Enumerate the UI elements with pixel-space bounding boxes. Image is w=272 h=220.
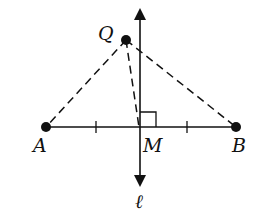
- label-q: Q: [98, 22, 114, 44]
- label-a: A: [31, 134, 47, 156]
- perpendicular-bisector-diagram: A B M Q ℓ: [0, 0, 272, 220]
- label-l: ℓ: [135, 190, 143, 212]
- dashed-segment-qb: [126, 40, 236, 127]
- right-angle-mark: [140, 112, 156, 127]
- point-q: [121, 35, 131, 45]
- dashed-segment-qm: [126, 40, 139, 127]
- label-m: M: [142, 134, 163, 156]
- arrow-up-icon: [134, 8, 146, 20]
- point-a: [41, 122, 51, 132]
- point-b: [231, 122, 241, 132]
- label-b: B: [231, 134, 246, 156]
- dashed-segment-qa: [46, 40, 126, 127]
- arrow-down-icon: [134, 175, 146, 187]
